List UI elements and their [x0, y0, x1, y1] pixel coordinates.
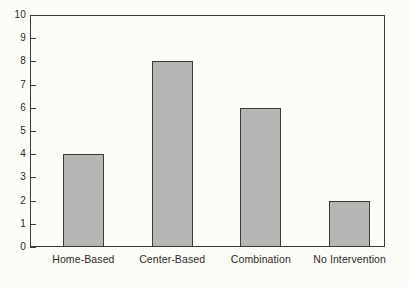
x-axis-category-label: No Intervention [313, 253, 386, 265]
y-axis-tick-label: 1 [0, 219, 26, 229]
x-axis-category-label: Home-Based [52, 253, 114, 265]
bar [240, 108, 281, 247]
y-axis-tick-label: 7 [0, 80, 26, 90]
y-axis-tick-label: 2 [0, 196, 26, 206]
bar [152, 61, 193, 247]
y-axis-tick-label: 6 [0, 103, 26, 113]
y-axis-tick-label: 9 [0, 33, 26, 43]
y-axis-tick-label: 4 [0, 149, 26, 159]
bar [63, 154, 104, 247]
y-axis-tick-label: 3 [0, 172, 26, 182]
y-axis-tick-label: 5 [0, 126, 26, 136]
bar-chart: 012345678910 Home-BasedCenter-BasedCombi… [0, 0, 409, 287]
y-axis-tick-label: 8 [0, 56, 26, 66]
x-axis-category-label: Combination [231, 253, 291, 265]
y-axis-tick-label: 10 [0, 10, 26, 20]
y-axis-tick-label: 0 [0, 242, 26, 252]
bar [329, 201, 370, 247]
y-axis-tick-mark [30, 247, 36, 248]
x-axis-category-label: Center-Based [139, 253, 205, 265]
